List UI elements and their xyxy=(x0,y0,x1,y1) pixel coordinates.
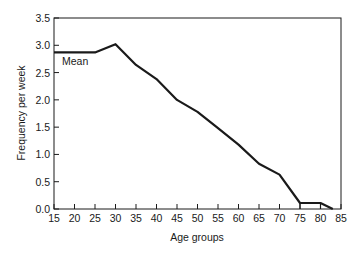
plot-frame xyxy=(54,18,341,209)
x-tick-label: 15 xyxy=(48,212,60,224)
y-tick-label: 1.5 xyxy=(35,121,50,133)
y-tick-label: 3.0 xyxy=(35,39,50,51)
y-tick-label: 1.0 xyxy=(35,148,50,160)
x-tick-label: 35 xyxy=(130,212,142,224)
x-tick-label: 75 xyxy=(294,212,306,224)
y-axis-title: Frequency per week xyxy=(15,65,27,161)
x-tick-label: 45 xyxy=(171,212,183,224)
x-tick-label: 40 xyxy=(151,212,163,224)
x-tick-label: 30 xyxy=(110,212,122,224)
y-tick-label: 2.5 xyxy=(35,67,50,79)
x-tick-label: 25 xyxy=(89,212,101,224)
y-tick-label: 0.5 xyxy=(35,176,50,188)
x-tick-label: 50 xyxy=(192,212,204,224)
x-tick-label: 65 xyxy=(253,212,265,224)
x-axis-title: Age groups xyxy=(170,231,224,243)
y-tick-label: 2.0 xyxy=(35,94,50,106)
y-tick-label: 3.5 xyxy=(35,12,50,24)
x-tick-label: 70 xyxy=(274,212,286,224)
frequency-line xyxy=(54,44,333,209)
x-tick-label: 80 xyxy=(315,212,327,224)
x-tick-label: 85 xyxy=(335,212,347,224)
x-tick-label: 20 xyxy=(69,212,81,224)
mean-annotation: Mean xyxy=(62,55,88,67)
y-axis-ticks: 0.00.51.01.52.02.53.03.5 xyxy=(35,12,59,215)
x-tick-label: 60 xyxy=(233,212,245,224)
line-chart: 0.00.51.01.52.02.53.03.5 152025303540455… xyxy=(0,0,362,257)
x-tick-label: 55 xyxy=(212,212,224,224)
x-axis-ticks: 152025303540455055606570758085 xyxy=(48,204,347,224)
